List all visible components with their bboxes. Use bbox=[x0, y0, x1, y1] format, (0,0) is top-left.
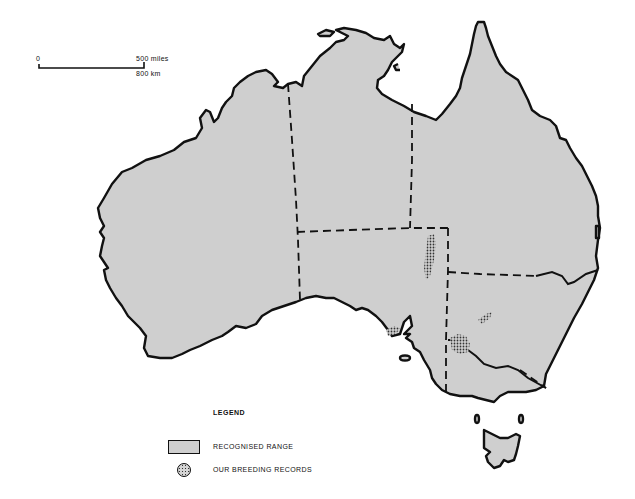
melville-island bbox=[318, 30, 334, 36]
scale-km-label: 800 km bbox=[136, 70, 161, 77]
groote-eylandt bbox=[394, 64, 400, 70]
tasmania bbox=[484, 430, 520, 468]
australia-map bbox=[0, 0, 635, 499]
legend-title: LEGEND bbox=[213, 409, 245, 416]
mainland-australia bbox=[98, 22, 600, 402]
legend-range-swatch bbox=[168, 440, 200, 454]
scale-bar-line bbox=[39, 62, 144, 68]
legend-breeding-label: OUR BREEDING RECORDS bbox=[213, 466, 312, 473]
scale-miles-label: 500 miles bbox=[136, 55, 169, 62]
fraser-island bbox=[596, 226, 599, 238]
legend-breeding-symbol bbox=[177, 463, 191, 477]
king-island bbox=[475, 415, 479, 423]
legend-range-label: RECOGNISED RANGE bbox=[213, 443, 293, 450]
kangaroo-island bbox=[400, 356, 410, 361]
flinders-island bbox=[519, 415, 523, 423]
scale-zero-label: 0 bbox=[36, 55, 40, 62]
